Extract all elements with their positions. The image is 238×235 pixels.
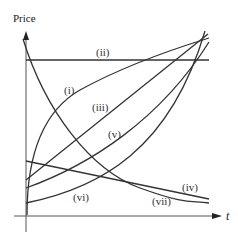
y-axis-label: Price <box>13 12 36 24</box>
y-axis-arrow-icon <box>23 31 29 40</box>
x-axis-label: t <box>226 209 230 223</box>
curve-iv <box>26 161 209 199</box>
label-i: (i) <box>64 84 75 97</box>
label-iii: (iii) <box>92 101 109 114</box>
label-iv: (iv) <box>182 181 198 194</box>
label-ii: (ii) <box>96 46 110 59</box>
label-vi: (vi) <box>73 191 89 204</box>
label-v: (v) <box>108 128 121 141</box>
price-chart: Price t (ii) (vii) (iv) (i) (iii) (v) (v… <box>0 0 238 235</box>
label-vii: (vii) <box>152 195 171 208</box>
x-axis-arrow-icon <box>212 213 222 219</box>
